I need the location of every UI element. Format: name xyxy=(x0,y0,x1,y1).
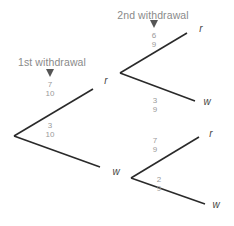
node-label-1-w: w xyxy=(112,166,119,177)
node-label-2r-r: r xyxy=(199,23,202,34)
arrow-down-icon-1st xyxy=(46,69,54,77)
branch-2r-w xyxy=(120,73,195,101)
node-label-2w-r: r xyxy=(209,128,212,139)
prob-2w-w: 2 9 xyxy=(157,175,161,193)
prob-2w-r: 7 9 xyxy=(153,136,157,154)
numerator: 7 xyxy=(153,136,157,145)
denominator: 9 xyxy=(153,145,157,154)
numerator: 7 xyxy=(46,80,55,89)
header-2nd-withdrawal: 2nd withdrawal xyxy=(117,9,188,21)
branch-1-w xyxy=(14,136,100,167)
prob-2r-r: 6 9 xyxy=(152,31,156,49)
node-label-1-r: r xyxy=(104,75,107,86)
tree-lines xyxy=(0,0,234,226)
numerator: 2 xyxy=(157,175,161,184)
branch-2w-w xyxy=(131,178,205,204)
header-1st-withdrawal: 1st withdrawal xyxy=(18,56,86,68)
prob-1-w: 3 10 xyxy=(46,121,55,139)
denominator: 10 xyxy=(46,130,55,139)
denominator: 10 xyxy=(46,89,55,98)
numerator: 6 xyxy=(152,31,156,40)
numerator: 3 xyxy=(46,121,55,130)
branch-2w-r xyxy=(131,137,199,178)
denominator: 9 xyxy=(152,40,156,49)
numerator: 3 xyxy=(153,96,157,105)
node-label-2w-w: w xyxy=(212,199,219,210)
arrow-down-icon-2nd xyxy=(150,20,158,28)
node-label-2r-w: w xyxy=(203,96,210,107)
prob-2r-w: 3 9 xyxy=(153,96,157,114)
denominator: 9 xyxy=(153,105,157,114)
prob-1-r: 7 10 xyxy=(46,80,55,98)
denominator: 9 xyxy=(157,184,161,193)
